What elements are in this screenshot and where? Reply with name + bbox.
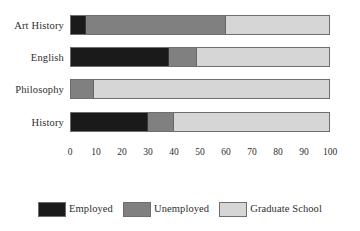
bar-segment-unemployed xyxy=(148,113,174,131)
legend-label-graduate-school: Graduate School xyxy=(250,203,322,215)
x-tick-80: 80 xyxy=(273,146,283,158)
bar-segment-graduate-school xyxy=(226,16,329,34)
x-tick-40: 40 xyxy=(169,146,179,158)
bar-segment-graduate-school xyxy=(174,113,329,131)
category-label-3: History xyxy=(0,112,64,132)
legend-item-graduate-school: Graduate School xyxy=(219,202,322,217)
x-tick-60: 60 xyxy=(221,146,231,158)
x-tick-100: 100 xyxy=(323,146,337,158)
legend-label-unemployed: Unemployed xyxy=(154,203,209,215)
category-label-2: Philosophy xyxy=(0,79,64,99)
legend-swatch-employed xyxy=(38,202,66,217)
x-tick-0: 0 xyxy=(68,146,73,158)
legend-item-employed: Employed xyxy=(38,202,113,217)
bar-segment-graduate-school xyxy=(197,48,329,66)
bar-segment-unemployed xyxy=(86,16,225,34)
bar-english xyxy=(70,47,330,67)
x-tick-10: 10 xyxy=(91,146,101,158)
category-label-1: English xyxy=(0,47,64,67)
category-label-0: Art History xyxy=(0,15,64,35)
bar-philosophy xyxy=(70,79,330,99)
x-tick-50: 50 xyxy=(195,146,205,158)
category-label-text: Art History xyxy=(0,20,64,31)
x-tick-20: 20 xyxy=(117,146,127,158)
legend-item-unemployed: Unemployed xyxy=(123,202,209,217)
bar-history xyxy=(70,112,330,132)
bar-segment-employed xyxy=(71,16,86,34)
bar-segment-graduate-school xyxy=(94,80,329,98)
stacked-bar-chart: Art History English Philosophy History 0… xyxy=(0,0,360,231)
category-label-text: History xyxy=(0,117,64,128)
chart-legend: Employed Unemployed Graduate School xyxy=(0,196,360,222)
x-tick-70: 70 xyxy=(247,146,257,158)
category-label-text: Philosophy xyxy=(0,84,64,95)
bar-segment-unemployed xyxy=(169,48,197,66)
legend-swatch-unemployed xyxy=(123,202,151,217)
bar-segment-unemployed xyxy=(71,80,94,98)
bar-segment-employed xyxy=(71,113,148,131)
bar-art-history xyxy=(70,15,330,35)
x-tick-30: 30 xyxy=(143,146,153,158)
x-tick-90: 90 xyxy=(299,146,309,158)
legend-label-employed: Employed xyxy=(69,203,113,215)
legend-swatch-graduate-school xyxy=(219,202,247,217)
bar-segment-employed xyxy=(71,48,169,66)
category-label-text: English xyxy=(0,52,64,63)
